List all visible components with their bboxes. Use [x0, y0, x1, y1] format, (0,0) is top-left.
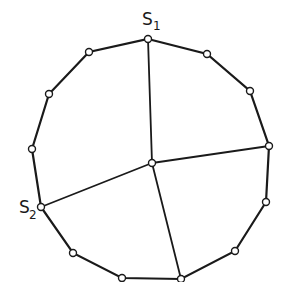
vertex: [232, 248, 239, 255]
graph-diagram: S 1 S 2: [0, 0, 293, 282]
vertex: [46, 91, 53, 98]
label-s1-sub: 1: [153, 19, 161, 33]
spoke-to-s2: [41, 163, 152, 207]
vertex-s1: [145, 36, 152, 43]
vertex-s2: [38, 204, 45, 211]
spoke-to-s1: [148, 39, 152, 163]
vertex: [86, 49, 93, 56]
vertex: [204, 51, 211, 58]
boundary-polygon: [32, 39, 269, 279]
vertices: [29, 36, 273, 282]
vertex: [263, 199, 270, 206]
vertex: [178, 276, 185, 282]
spoke-to-bottom: [152, 163, 181, 279]
vertex: [266, 143, 273, 150]
vertex: [119, 275, 126, 282]
spoke-to-right: [152, 146, 269, 163]
spokes: [41, 39, 269, 279]
vertex: [70, 250, 77, 257]
label-s2-sub: 2: [29, 208, 37, 222]
vertex: [247, 88, 254, 95]
vertex: [29, 146, 36, 153]
label-s1-main: S: [142, 9, 153, 29]
center-vertex: [149, 160, 156, 167]
label-s2: S 2: [19, 197, 37, 222]
label-s1: S 1: [142, 9, 161, 33]
